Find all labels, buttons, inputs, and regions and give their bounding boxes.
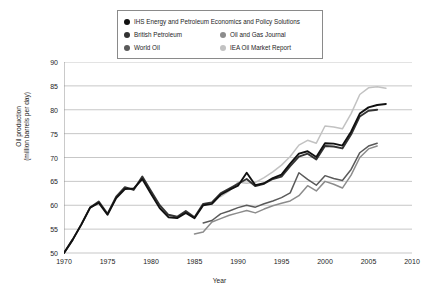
y-axis-title: Oil production (million barrels per day) [15,51,32,201]
data-series-line [203,143,377,223]
x-axis-tick-label: 1980 [143,258,159,265]
legend-marker-icon [124,32,130,38]
x-axis-tick-label: 2010 [404,258,420,265]
x-axis-title: Year [0,277,439,284]
legend-entry-iea: IEA Oil Market Report [220,44,316,51]
legend-entry-ogj: Oil and Gas Journal [220,31,316,38]
x-axis-tick-label: 2000 [317,258,333,265]
legend-row: IHS Energy and Petroleum Economics and P… [124,15,316,28]
y-axis-tick-label: 60 [34,202,58,209]
data-series-line [64,104,386,253]
y-axis-tick-label: 70 [34,154,58,161]
legend-label: British Petroleum [134,31,182,38]
y-axis-tick-label: 80 [34,106,58,113]
plot-area [64,62,412,253]
data-series-line [195,146,378,234]
legend-entry-world-oil: World Oil [124,44,220,51]
x-axis-tick-label: 1975 [100,258,116,265]
chart-figure: IHS Energy and Petroleum Economics and P… [0,0,439,297]
y-axis-tick-label: 50 [34,250,58,257]
x-axis-tick-label: 2005 [361,258,377,265]
legend-label: Oil and Gas Journal [230,31,286,38]
x-axis-tick-label: 1985 [187,258,203,265]
y-axis-tick-label: 85 [34,82,58,89]
y-axis-title-line1: Oil production [15,106,22,147]
legend-row: World Oil IEA Oil Market Report [124,41,316,54]
legend-row: British Petroleum Oil and Gas Journal [124,28,316,41]
legend-marker-icon [124,19,130,25]
legend-marker-icon [220,45,226,51]
legend-marker-icon [124,45,130,51]
legend-label: IHS Energy and Petroleum Economics and P… [134,18,300,25]
y-axis-tick-label: 55 [34,226,58,233]
x-axis-ticks: 197019751980198519901995200020052010 [64,258,412,270]
legend-entry-ihs: IHS Energy and Petroleum Economics and P… [124,18,316,25]
legend-marker-icon [220,32,226,38]
x-axis-tick-label: 1970 [56,258,72,265]
y-axis-tick-label: 75 [34,130,58,137]
y-axis-tick-label: 65 [34,178,58,185]
y-axis-tick-label: 90 [34,59,58,66]
legend-label: IEA Oil Market Report [230,44,291,51]
y-axis-title-line2: (million barrels per day) [23,92,30,161]
legend-label: World Oil [134,44,160,51]
plot-svg [64,62,412,254]
x-axis-tick-label: 1990 [230,258,246,265]
x-axis-tick-label: 1995 [274,258,290,265]
legend-entry-bp: British Petroleum [124,31,220,38]
y-axis-ticks: 505560657075808590 [34,62,58,253]
chart-legend: IHS Energy and Petroleum Economics and P… [117,10,323,59]
